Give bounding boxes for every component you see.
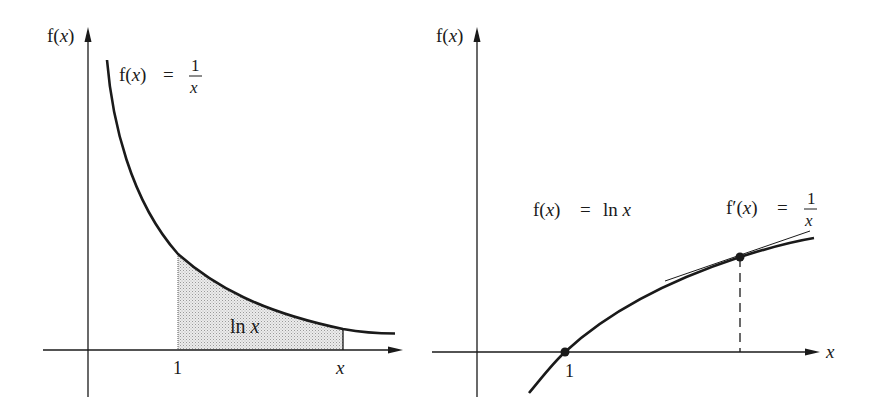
right-x-tick-1: 1 — [565, 361, 574, 381]
svg-text:f(x): f(x) — [119, 64, 146, 86]
log-function-label: f(x) = ln x — [533, 199, 632, 221]
left-y-axis-label: f(x) — [47, 25, 74, 47]
svg-text:x: x — [189, 78, 198, 97]
right-x-axis-arrow-icon — [805, 349, 820, 356]
right-y-axis-label: f(x) — [436, 25, 463, 47]
right-x-axis-label: x — [825, 341, 835, 362]
diagram-canvas: f(x) f(x) = 1 x ln x 1 x — [0, 0, 878, 416]
svg-text:1: 1 — [191, 56, 200, 75]
svg-text:=: = — [580, 199, 591, 220]
svg-text:1: 1 — [807, 189, 816, 208]
tangent-point — [736, 253, 745, 262]
right-y-axis-arrow-icon — [474, 27, 481, 42]
root-point — [561, 348, 570, 357]
svg-text:f(x): f(x) — [533, 199, 560, 221]
left-y-axis-arrow-icon — [85, 27, 92, 42]
shaded-area-ln-x — [178, 254, 343, 350]
svg-text:=: = — [163, 64, 174, 85]
left-x-axis-arrow-icon — [388, 347, 403, 354]
svg-text:ln x: ln x — [603, 199, 632, 220]
right-panel-log-graph: f(x) x f(x) = ln x f′(x) = 1 x 1 — [432, 25, 835, 397]
left-x-tick-1: 1 — [173, 358, 182, 378]
left-x-tick-x: x — [335, 357, 345, 378]
left-panel-reciprocal-graph: f(x) f(x) = 1 x ln x 1 x — [43, 25, 403, 397]
svg-text:=: = — [777, 197, 788, 218]
svg-text:x: x — [804, 211, 813, 230]
reciprocal-curve — [107, 60, 395, 334]
svg-text:f′(x): f′(x) — [726, 197, 758, 219]
derivative-label: f′(x) = 1 x — [726, 189, 817, 230]
reciprocal-function-label: f(x) = 1 x — [119, 56, 202, 97]
area-label-ln-x: ln x — [230, 315, 260, 337]
